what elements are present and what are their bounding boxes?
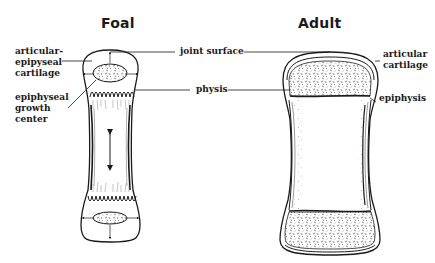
label-epiphysis: epiphysis	[379, 93, 426, 104]
label-line: center	[15, 114, 69, 125]
adult-bone	[280, 52, 380, 255]
foal-title: Foal	[101, 15, 135, 31]
label-line: articular	[383, 49, 428, 60]
adult-upper-epiphysis	[289, 61, 371, 96]
diagram-artwork	[0, 0, 435, 263]
foal-bone	[81, 50, 140, 242]
adult-title: Adult	[298, 15, 341, 31]
label-line: epiphyseal	[15, 92, 69, 103]
label-articular-epipyseal-cartilage: articular- epipyseal cartilage	[15, 46, 63, 79]
label-physis: physis	[196, 84, 228, 95]
label-line: articular-	[15, 46, 63, 57]
foal-lower-growth-center	[93, 212, 127, 224]
foal-upper-growth-center	[93, 64, 127, 82]
label-line: epipyseal	[15, 57, 63, 68]
adult-lower-epiphysis	[285, 212, 375, 249]
label-line: cartilage	[15, 68, 63, 79]
bone-growth-diagram: Foal Adult articular- epipyseal cartilag…	[0, 0, 435, 263]
label-joint-surface: joint surface	[180, 46, 244, 57]
label-articular-cartilage: articular cartilage	[383, 49, 428, 71]
label-epiphyseal-growth-center: epiphyseal growth center	[15, 92, 69, 125]
label-line: cartilage	[383, 60, 428, 71]
label-line: growth	[15, 103, 69, 114]
